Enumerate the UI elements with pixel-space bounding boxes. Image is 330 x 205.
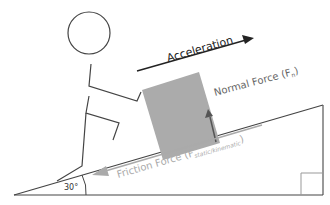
- angle-arc: [82, 175, 86, 195]
- physics-diagram: Acceleration Normal Force (Fn) Friction …: [0, 0, 330, 205]
- right-angle-marker: [301, 173, 323, 195]
- angle-label: 30°: [64, 183, 78, 192]
- stick-figure-head: [68, 12, 110, 54]
- acceleration-label: Acceleration: [165, 34, 234, 65]
- stick-figure-back-leg: [86, 96, 119, 140]
- stick-figure-arm: [89, 64, 141, 101]
- normal-force-label: Normal Force (Fn): [213, 65, 300, 99]
- stick-figure-front-leg: [57, 113, 86, 181]
- stick-figure: [57, 12, 141, 181]
